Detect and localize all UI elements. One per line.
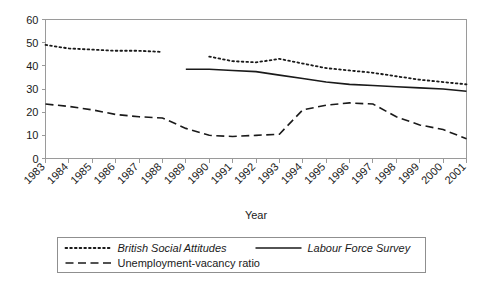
series-layer: [46, 45, 467, 139]
x-tick-label: 1994: [278, 160, 304, 186]
x-tick-label: 1986: [91, 160, 117, 186]
x-tick-label: 1999: [395, 160, 421, 186]
plot-frame: [46, 20, 467, 159]
x-tick-label: 1996: [325, 160, 351, 186]
x-axis-title: Year: [245, 209, 268, 221]
plot-area: [46, 20, 467, 159]
legend-label: British Social Attitudes: [118, 242, 228, 254]
x-tick-label: 1997: [349, 160, 375, 186]
series-line-2: [46, 103, 467, 139]
x-tick-label: 1991: [208, 160, 234, 186]
x-tick-label: 1998: [372, 160, 398, 186]
chart-container: 0102030405060 19831984198519861987198819…: [0, 0, 483, 288]
line-chart: 0102030405060 19831984198519861987198819…: [0, 0, 483, 288]
x-tick-label: 1995: [302, 160, 328, 186]
chart-legend: British Social AttitudesLabour Force Sur…: [58, 238, 426, 273]
y-tick-label: 10: [26, 129, 38, 141]
y-axis-ticks: 0102030405060: [26, 14, 45, 165]
x-tick-label: 2001: [442, 160, 468, 186]
x-tick-label: 1987: [115, 160, 141, 186]
series-line-0: [46, 45, 163, 52]
y-tick-label: 20: [26, 106, 38, 118]
x-tick-label: 1990: [185, 160, 211, 186]
y-tick-label: 40: [26, 60, 38, 72]
x-tick-label: 1983: [21, 160, 47, 186]
x-tick-label: 1985: [68, 160, 94, 186]
x-tick-label: 1988: [138, 160, 164, 186]
x-tick-label: 1989: [161, 160, 187, 186]
y-tick-label: 60: [26, 14, 38, 26]
x-tick-label: 1993: [255, 160, 281, 186]
x-axis-ticks: 1983198419851986198719881989199019911992…: [21, 159, 468, 187]
x-tick-label: 2000: [419, 160, 445, 186]
legend-label: Labour Force Survey: [308, 242, 412, 254]
y-tick-label: 30: [26, 83, 38, 95]
x-tick-label: 1992: [232, 160, 258, 186]
x-tick-label: 1984: [45, 160, 71, 186]
legend-label: Unemployment-vacancy ratio: [118, 257, 260, 269]
y-tick-label: 50: [26, 37, 38, 49]
